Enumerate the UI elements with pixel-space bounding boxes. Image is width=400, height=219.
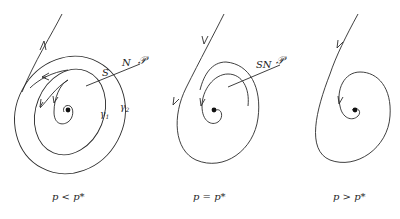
label-N: N bbox=[121, 57, 132, 68]
panel-right: p > p* bbox=[316, 14, 391, 202]
arrow-head-loop-middle bbox=[173, 97, 179, 105]
bifurcation-diagram: S N 𝒫 γ1 γ2 p < p* SN 𝒫 p = p* p > p* bbox=[0, 0, 400, 219]
panel-middle: SN 𝒫 p = p* bbox=[173, 14, 287, 202]
spiral-trajectory-right bbox=[316, 14, 391, 162]
label-section: 𝒫 bbox=[138, 54, 149, 67]
caption-right: p > p* bbox=[333, 191, 366, 202]
focus-point-middle bbox=[212, 108, 217, 113]
label-gamma1: γ1 bbox=[100, 109, 109, 120]
focus-point-right bbox=[353, 108, 358, 113]
diagram-svg: S N 𝒫 γ1 γ2 p < p* SN 𝒫 p = p* p > p* bbox=[0, 0, 400, 219]
focus-point bbox=[66, 108, 71, 113]
label-section-middle: 𝒫 bbox=[276, 54, 287, 67]
caption-middle: p = p* bbox=[193, 191, 226, 202]
label-SN: SN bbox=[256, 59, 273, 70]
label-S: S bbox=[102, 67, 109, 78]
caption-left: p < p* bbox=[52, 191, 85, 202]
label-gamma2: γ2 bbox=[120, 102, 129, 113]
arrow-head-incoming-middle bbox=[202, 36, 208, 44]
inner-spiral bbox=[40, 80, 73, 124]
panel-left: S N 𝒫 γ1 γ2 p < p* bbox=[0, 14, 149, 202]
poincare-section bbox=[86, 64, 140, 86]
